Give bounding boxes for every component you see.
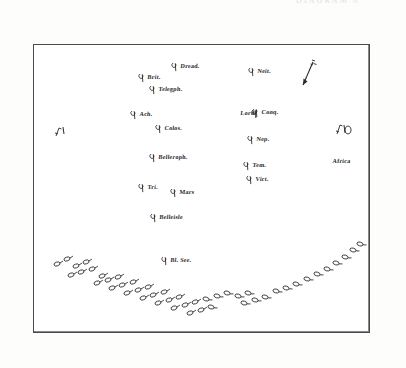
ship-label-text: Telegph. bbox=[157, 85, 183, 92]
wind-arrow-icon bbox=[303, 60, 317, 85]
ship-glyph-icon bbox=[244, 162, 248, 170]
ship-label-ach: Ach. bbox=[138, 109, 153, 117]
ship-label-telegph: Telegph. bbox=[157, 84, 182, 92]
ship-glyph-icon bbox=[151, 214, 155, 222]
fleet-arc-layer bbox=[53, 241, 366, 315]
arc-ship-icon bbox=[108, 284, 118, 291]
ship-label-text: Belleroph. bbox=[157, 153, 188, 160]
ship-label-text: Tem. bbox=[251, 161, 267, 168]
arc-ship-icon bbox=[114, 273, 124, 280]
arc-ship-icon bbox=[332, 260, 342, 266]
ship-label-text: Conq. bbox=[260, 108, 279, 115]
arc-ship-icon bbox=[202, 296, 212, 302]
ship-label-neit: Neit. bbox=[256, 66, 271, 74]
ship-glyph-icon bbox=[247, 176, 251, 184]
ship-label-text: Ach. bbox=[138, 110, 153, 117]
arc-ship-icon bbox=[88, 265, 98, 272]
ship-label-text: Lord bbox=[239, 109, 255, 116]
ship-glyph-icon bbox=[248, 136, 252, 144]
arc-ship-icon bbox=[234, 293, 244, 299]
arc-ship-icon bbox=[170, 304, 180, 311]
arc-ship-icon bbox=[165, 296, 175, 303]
ship-glyph-icon bbox=[150, 86, 154, 94]
ship-label-text: Dread. bbox=[179, 62, 200, 69]
arc-ship-icon bbox=[144, 283, 154, 290]
arc-ship-icon bbox=[349, 247, 359, 253]
ship-label-text: Colos. bbox=[163, 124, 183, 131]
arc-ship-icon bbox=[356, 241, 366, 247]
arc-ship-icon bbox=[104, 276, 114, 283]
arc-ship-icon bbox=[240, 300, 250, 306]
ship-glyph-icon bbox=[171, 189, 175, 197]
arc-ship-icon bbox=[186, 309, 196, 316]
arc-ship-icon bbox=[323, 266, 333, 272]
arc-ship-icon bbox=[292, 281, 302, 287]
arc-ship-icon bbox=[313, 271, 323, 277]
ship-label-text: Nep. bbox=[255, 135, 270, 142]
ship-label-belleroph: Belleroph. bbox=[157, 152, 188, 160]
ship-glyph-icon bbox=[139, 74, 143, 82]
arc-ship-icon bbox=[93, 279, 103, 286]
ship-label-mars: Mars bbox=[178, 187, 194, 195]
arc-ship-icon bbox=[53, 260, 63, 267]
ship-label-vict: Vict. bbox=[254, 174, 269, 182]
arc-ship-icon bbox=[181, 301, 191, 308]
arc-ship-icon bbox=[197, 306, 207, 313]
arc-ship-icon bbox=[160, 288, 170, 295]
arc-ship-icon bbox=[149, 291, 159, 298]
arc-ship-icon bbox=[98, 272, 108, 279]
ship-label-text: Mars bbox=[178, 188, 195, 195]
ship-label-africa: Africa bbox=[331, 156, 351, 164]
arc-ship-icon bbox=[223, 290, 233, 296]
arc-ship-icon bbox=[191, 298, 201, 305]
ship-glyph-icon bbox=[156, 125, 160, 133]
diagram-canvas bbox=[0, 0, 406, 368]
ship-glyph-icon bbox=[162, 257, 166, 265]
arc-ship-icon bbox=[154, 299, 164, 306]
arc-ship-icon bbox=[213, 293, 223, 299]
arc-ship-icon bbox=[63, 255, 73, 262]
ship-glyph-icon bbox=[172, 63, 176, 71]
arc-ship-icon bbox=[123, 289, 133, 296]
arc-ship-icon bbox=[67, 271, 77, 278]
arc-ship-icon bbox=[272, 288, 282, 294]
arc-ship-icon bbox=[261, 294, 271, 300]
ship-label-conq: Conq. bbox=[260, 107, 279, 115]
ship-label-text: Tri. bbox=[146, 183, 159, 190]
ship-label-brit: Brit. bbox=[146, 72, 161, 80]
arc-ship-icon bbox=[129, 278, 139, 285]
arc-ship-icon bbox=[303, 276, 313, 282]
page-background: DIAGRAM 6 Brit.Dread.Neit.Telegph.Ach.Lo… bbox=[0, 0, 406, 368]
ship-label-text: Brit. bbox=[146, 73, 161, 80]
arc-ship-icon bbox=[341, 254, 351, 260]
ship-label-dread: Dread. bbox=[179, 61, 200, 69]
ship-label-tri: Tri. bbox=[146, 182, 158, 190]
arc-ship-icon bbox=[139, 294, 149, 301]
ship-glyph-icon bbox=[150, 154, 154, 162]
ship-label-bl-see: Bl. See. bbox=[169, 255, 192, 263]
arc-ship-icon bbox=[244, 290, 254, 296]
arc-ship-icon bbox=[77, 268, 87, 275]
ship-label-text: Neit. bbox=[256, 67, 272, 74]
arc-ship-icon bbox=[82, 258, 92, 265]
ship-label-text: Africa bbox=[331, 157, 351, 164]
arc-ship-icon bbox=[251, 297, 261, 303]
ship-glyph-icon bbox=[131, 111, 135, 119]
ship-glyph-layer bbox=[131, 63, 257, 265]
arc-ship-icon bbox=[207, 304, 217, 310]
ship-label-text: Bl. See. bbox=[169, 256, 192, 263]
ship-label-belleisle: Belleisle bbox=[158, 212, 183, 220]
arc-ship-icon bbox=[134, 286, 144, 293]
ship-label-colos: Colos. bbox=[163, 123, 182, 131]
arc-ship-icon bbox=[118, 281, 128, 288]
arc-ship-icon bbox=[72, 262, 82, 269]
ship-label-text: Vict. bbox=[254, 175, 270, 182]
arc-ship-icon bbox=[175, 293, 185, 300]
ship-label-nep: Nep. bbox=[255, 134, 270, 142]
ship-glyph-icon bbox=[139, 184, 143, 192]
ship-label-tem: Tem. bbox=[251, 160, 266, 168]
ship-label-lord: Lord bbox=[239, 108, 255, 116]
ship-label-text: Belleisle bbox=[158, 213, 184, 220]
arc-ship-icon bbox=[282, 285, 292, 291]
ship-glyph-icon bbox=[249, 68, 253, 76]
